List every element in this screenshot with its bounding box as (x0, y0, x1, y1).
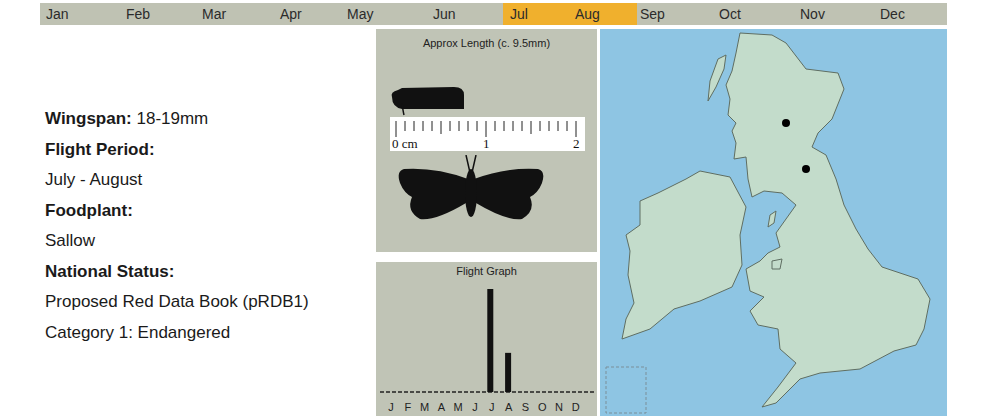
flight-month-bar: JanFebMarAprMayJunJulAugSepOctNovDec (40, 3, 947, 25)
svg-text:1: 1 (483, 136, 490, 151)
distribution-map (600, 29, 947, 416)
svg-text:O: O (538, 401, 547, 413)
svg-text:2: 2 (573, 136, 580, 151)
flight-graph-chart: JFMAMJJASOND (376, 262, 597, 416)
species-info: Wingspan: 18-19mm Flight Period: July - … (45, 104, 375, 348)
svg-text:A: A (505, 401, 513, 413)
month-dec: Dec (880, 3, 905, 25)
month-sep: Sep (640, 3, 665, 25)
wingspan-value: 18-19mm (136, 109, 208, 128)
great-britain-landmass (726, 33, 930, 407)
month-feb: Feb (126, 3, 150, 25)
record-dot-icon (802, 165, 810, 173)
flight-graph-panel: Flight Graph JFMAMJJASOND (376, 262, 597, 416)
ruler: 0 cm12 (390, 117, 585, 151)
anglesey (772, 259, 782, 269)
svg-text:J: J (489, 401, 495, 413)
flight-bar-7 (505, 353, 511, 392)
month-may: May (347, 3, 373, 25)
svg-text:S: S (522, 401, 529, 413)
ireland-landmass (622, 171, 746, 339)
month-nov: Nov (800, 3, 825, 25)
wingspan-label: Wingspan: (45, 109, 132, 128)
month-oct: Oct (719, 3, 741, 25)
svg-text:N: N (555, 401, 563, 413)
uk-ireland-map (600, 29, 947, 416)
month-mar: Mar (202, 3, 226, 25)
isle-of-man (768, 211, 776, 227)
record-dot-icon (782, 119, 790, 127)
flight-bar-6 (487, 289, 493, 392)
svg-text:M: M (454, 401, 463, 413)
svg-text:A: A (438, 401, 446, 413)
approx-length-title: Approx Length (c. 9.5mm) (376, 37, 597, 49)
month-jan: Jan (46, 3, 69, 25)
hebrides-island (708, 55, 726, 101)
month-jun: Jun (433, 3, 456, 25)
national-status-line1: Proposed Red Data Book (pRDB1) (45, 287, 375, 318)
moth-spread-silhouette-icon (396, 155, 546, 225)
foodplant-label: Foodplant: (45, 196, 375, 227)
wingspan-row: Wingspan: 18-19mm (45, 104, 375, 135)
svg-text:D: D (572, 401, 580, 413)
month-jul: Jul (510, 3, 528, 25)
month-apr: Apr (280, 3, 302, 25)
flight-period-value: July - August (45, 165, 375, 196)
month-aug: Aug (575, 3, 600, 25)
moth-side-silhouette-icon (388, 85, 468, 117)
flight-period-label: Flight Period: (45, 135, 375, 166)
national-status-line2: Category 1: Endangered (45, 318, 375, 349)
svg-text:J: J (472, 401, 478, 413)
foodplant-value: Sallow (45, 226, 375, 257)
svg-text:F: F (404, 401, 411, 413)
national-status-label: National Status: (45, 257, 375, 288)
approx-length-panel: Approx Length (c. 9.5mm) 0 cm12 (376, 29, 597, 252)
channel-islands-inset (606, 367, 646, 413)
svg-text:J: J (388, 401, 394, 413)
svg-text:0 cm: 0 cm (392, 136, 418, 151)
svg-text:M: M (420, 401, 429, 413)
